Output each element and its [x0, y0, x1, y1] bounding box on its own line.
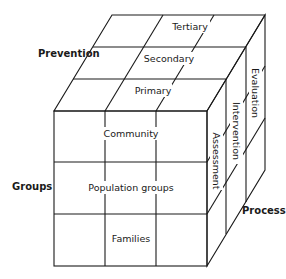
cube-diagram: Prevention Groups Process Tertiary Secon…	[0, 0, 286, 279]
process-level-evaluation: Evaluation	[250, 68, 261, 118]
prevention-level-tertiary: Tertiary	[171, 21, 208, 32]
group-level-community: Community	[104, 128, 159, 139]
prevention-axis-label: Prevention	[38, 48, 100, 59]
prevention-level-primary: Primary	[135, 85, 172, 96]
group-level-families: Families	[112, 233, 150, 244]
groups-axis-label: Groups	[12, 181, 52, 192]
process-axis-label: Process	[242, 205, 286, 216]
group-level-population-groups: Population groups	[88, 182, 174, 193]
process-level-intervention: Intervention	[231, 102, 242, 160]
prevention-level-secondary: Secondary	[144, 53, 195, 64]
process-level-assessment: Assessment	[211, 133, 222, 190]
